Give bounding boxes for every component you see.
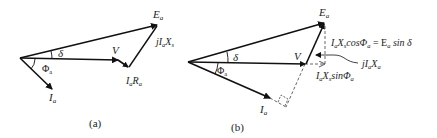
phi-label-b: Φa [217, 65, 227, 77]
diagram-a: Ea jIaXs V IaRa δ Φa Ia (a) [20, 8, 174, 130]
dashed-perp-b [286, 64, 305, 107]
sin-label-b: IaXssinΦa [315, 70, 354, 82]
delta-arc-a [51, 51, 52, 59]
iara-phasor-a [118, 60, 128, 67]
jiaxa-phasor-b [306, 24, 324, 64]
phi-arc-a [31, 59, 35, 69]
delta-label-a: δ [58, 47, 64, 59]
iara-label-a: IaRa [125, 75, 142, 87]
jiaxs-phasor-a [129, 26, 157, 67]
caption-a: (a) [89, 117, 102, 130]
ia-phasor-b [188, 62, 270, 98]
jiaxs-label-a: jIaXs [154, 36, 174, 48]
delta-arc-b [227, 52, 228, 63]
ea-phasor-b [188, 23, 324, 62]
jiaxa-leader-b [316, 55, 358, 63]
v-label-a: V [112, 44, 120, 56]
jiaxa-label-b: jIaXa [360, 58, 381, 70]
phi-label-a: Φa [42, 63, 52, 75]
ia-label-b: Ia [259, 103, 268, 117]
v-label-b: V [294, 50, 302, 62]
right-angle-marker-b [278, 95, 288, 106]
v-phasor-b [188, 62, 305, 64]
ia-label-a: Ia [48, 91, 57, 105]
cos-equation-label-b: IaXscosΦa = Ea sin δ [330, 37, 412, 49]
caption-b: (b) [231, 121, 244, 134]
dashed-ia-ext-b [270, 98, 286, 107]
delta-label-b: δ [233, 51, 239, 63]
ea-phasor-a [20, 25, 157, 58]
ea-label-b: Ea [318, 6, 330, 20]
ea-label-a: Ea [152, 8, 164, 22]
phasor-diagrams: Ea jIaXs V IaRa δ Φa Ia (a) Ea IaXscosΦa… [0, 0, 437, 138]
diagram-b: Ea IaXscosΦa = Ea sin δ jIaXa IaXssinΦa … [188, 6, 412, 134]
